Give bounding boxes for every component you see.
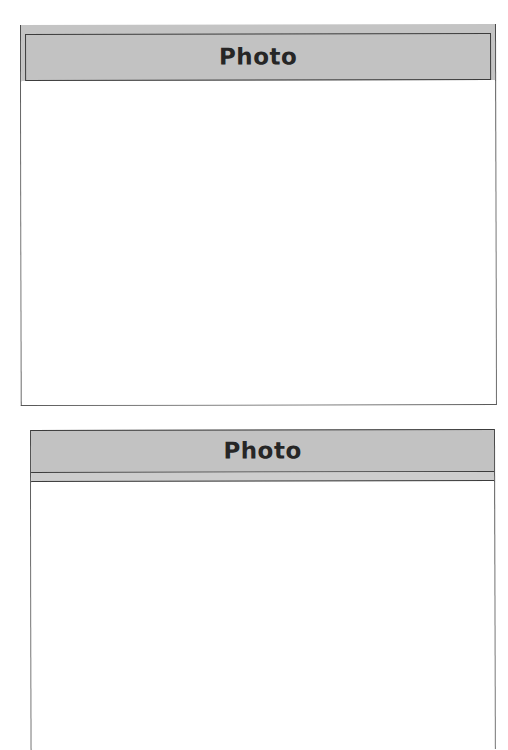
photo-frame-1-title: Photo: [219, 45, 297, 68]
photo-frame-2-header: Photo: [31, 429, 494, 473]
photo-frame-1: Photo: [20, 24, 497, 406]
photo-frame-2-title: Photo: [223, 439, 301, 462]
photo-frame-1-header: Photo: [25, 33, 491, 81]
photo-frame-2-placeholder: [31, 482, 495, 750]
photo-frame-1-placeholder: [21, 81, 496, 405]
photo-frame-2-header-strip: [31, 472, 494, 482]
photo-frame-2: Photo: [30, 429, 496, 750]
